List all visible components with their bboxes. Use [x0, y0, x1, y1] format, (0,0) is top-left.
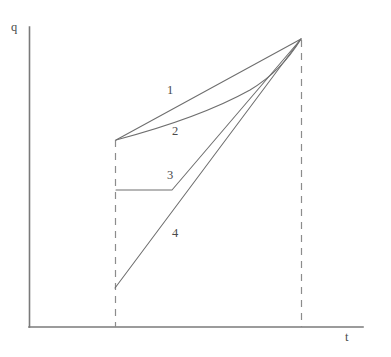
curve-3-path: [116, 39, 301, 190]
x-axis-label: t: [345, 331, 348, 344]
y-axis-label: q: [11, 21, 17, 34]
curve-label-2: 2: [172, 125, 178, 138]
curve-4-path: [115, 39, 301, 288]
curve-label-4: 4: [172, 227, 178, 240]
plot-canvas: [0, 0, 391, 357]
curve-1-path: [116, 39, 301, 140]
curve-label-3: 3: [167, 169, 173, 182]
chart-figure: q t 1 2 3 4: [0, 0, 391, 357]
curve-label-1: 1: [167, 84, 173, 97]
